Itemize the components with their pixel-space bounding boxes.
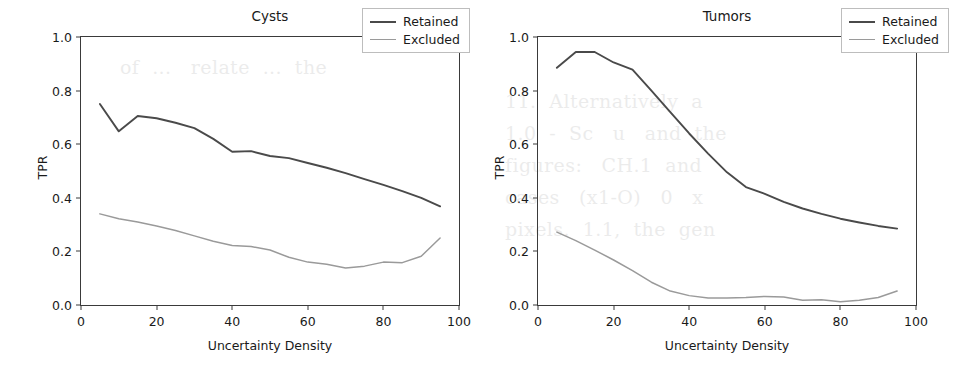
x-tick-label: 100	[904, 314, 928, 329]
y-tick-label: 0.8	[509, 83, 529, 98]
plot-lines	[81, 37, 459, 305]
y-tick-mark	[76, 144, 81, 145]
y-tick-label: 0.0	[52, 298, 72, 313]
x-tick-label: 40	[681, 314, 697, 329]
x-tick-mark	[538, 305, 539, 310]
series-line-excluded	[100, 214, 440, 268]
legend: Retained Excluded	[362, 8, 470, 53]
y-tick-mark	[533, 197, 538, 198]
y-tick-mark	[76, 251, 81, 252]
y-tick-mark	[76, 90, 81, 91]
y-tick-mark	[533, 144, 538, 145]
y-tick-label: 0.6	[509, 137, 529, 152]
y-tick-label: 1.0	[509, 30, 529, 45]
x-tick-mark	[764, 305, 765, 310]
legend-label: Excluded	[403, 32, 460, 47]
y-tick-label: 0.8	[52, 83, 72, 98]
x-axis-label: Uncertainty Density	[537, 338, 917, 353]
x-tick-label: 80	[375, 314, 391, 329]
plot-lines	[538, 37, 916, 305]
x-tick-label: 0	[77, 314, 85, 329]
chart-panel-cysts: Cysts TPR Uncertainty Density 0.00.20.40…	[0, 0, 479, 385]
x-tick-mark	[383, 305, 384, 310]
legend-line-icon	[370, 39, 396, 40]
x-tick-mark	[916, 305, 917, 310]
legend-label: Retained	[403, 14, 458, 29]
x-tick-mark	[307, 305, 308, 310]
y-tick-mark	[533, 251, 538, 252]
y-axis-label: TPR	[492, 148, 507, 188]
y-tick-label: 0.0	[509, 298, 529, 313]
series-line-retained	[557, 52, 897, 229]
x-tick-label: 0	[534, 314, 542, 329]
x-tick-label: 20	[606, 314, 622, 329]
y-tick-label: 0.2	[509, 244, 529, 259]
legend-entry-excluded: Excluded	[849, 32, 939, 47]
x-tick-label: 80	[832, 314, 848, 329]
x-tick-mark	[613, 305, 614, 310]
legend-line-icon	[849, 21, 875, 23]
x-tick-mark	[689, 305, 690, 310]
x-tick-label: 20	[149, 314, 165, 329]
x-tick-label: 100	[447, 314, 471, 329]
y-tick-label: 0.6	[52, 137, 72, 152]
plot-area: 0.00.20.40.60.81.0020406080100	[80, 36, 460, 306]
x-tick-mark	[459, 305, 460, 310]
x-tick-label: 40	[224, 314, 240, 329]
series-line-retained	[100, 104, 440, 206]
x-tick-mark	[840, 305, 841, 310]
x-tick-mark	[81, 305, 82, 310]
x-tick-label: 60	[757, 314, 773, 329]
plot-area: 0.00.20.40.60.81.0020406080100	[537, 36, 917, 306]
y-tick-mark	[76, 197, 81, 198]
y-tick-label: 0.4	[509, 190, 529, 205]
figure: Cysts TPR Uncertainty Density 0.00.20.40…	[0, 0, 958, 385]
series-line-excluded	[557, 232, 897, 302]
legend: Retained Excluded	[841, 8, 949, 53]
x-tick-label: 60	[300, 314, 316, 329]
x-tick-mark	[156, 305, 157, 310]
y-axis-label: TPR	[35, 148, 50, 188]
legend-line-icon	[370, 21, 396, 23]
x-tick-mark	[232, 305, 233, 310]
y-tick-mark	[533, 90, 538, 91]
legend-entry-retained: Retained	[849, 14, 939, 29]
legend-label: Retained	[882, 14, 937, 29]
legend-label: Excluded	[882, 32, 939, 47]
x-axis-label: Uncertainty Density	[80, 338, 460, 353]
chart-panel-tumors: Tumors TPR Uncertainty Density 0.00.20.4…	[479, 0, 958, 385]
y-tick-mark	[533, 37, 538, 38]
y-tick-label: 1.0	[52, 30, 72, 45]
legend-line-icon	[849, 39, 875, 40]
legend-entry-retained: Retained	[370, 14, 460, 29]
y-tick-label: 0.2	[52, 244, 72, 259]
y-tick-mark	[76, 37, 81, 38]
legend-entry-excluded: Excluded	[370, 32, 460, 47]
y-tick-label: 0.4	[52, 190, 72, 205]
